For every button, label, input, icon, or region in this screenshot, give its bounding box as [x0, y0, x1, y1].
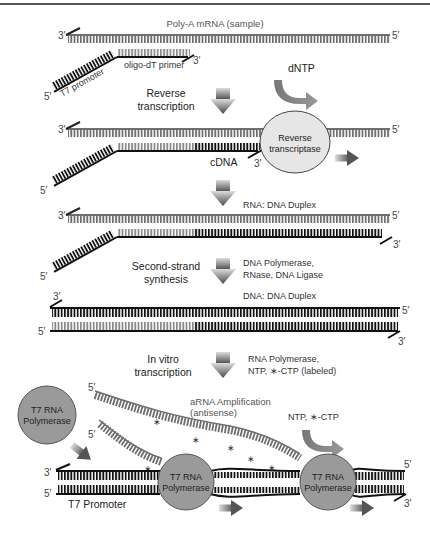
arna-label-1: aRNA Amplification	[190, 396, 271, 407]
s3-end-3: 3′	[58, 210, 66, 221]
direction-arrow-icon	[335, 150, 359, 166]
step-dna-dna-duplex: DNA: DNA Duplex 3′ 5′ 5′ 3′	[38, 291, 410, 347]
promoter-end-5: 5′	[44, 91, 52, 102]
t7-enzyme2-label-1: T7 RNA	[312, 472, 344, 482]
cy-label-marker: ∗	[192, 435, 200, 445]
direction-arrow-icon	[219, 500, 243, 516]
s4-bottom-end-5: 5′	[38, 326, 46, 337]
process-arrow-duplex	[210, 180, 236, 206]
arna-end-5-a: 5′	[88, 382, 96, 393]
second-strand-label-1: Second-strand	[132, 260, 200, 272]
cy-label-marker: ∗	[227, 443, 235, 453]
cdna-label: cDNA	[210, 156, 237, 168]
arna-end-5-b: 5′	[88, 429, 96, 440]
cy-label-marker: ∗	[153, 417, 161, 427]
process-arrow-reverse-transcription: Reverse transcription	[137, 87, 236, 114]
binding-arrow-icon	[67, 439, 96, 466]
second-strand-reagents-1: DNA Polymerase,	[243, 258, 314, 268]
s5-top-end-5: 5′	[404, 459, 412, 470]
dna-dna-duplex-label: DNA: DNA Duplex	[243, 291, 317, 301]
s2-end-3: 3′	[58, 124, 66, 135]
ivt-reagents-1: RNA Polymerase,	[248, 354, 319, 364]
rt-enzyme-label-1: Reverse	[278, 133, 312, 143]
second-strand-label-2: synthesis	[144, 273, 188, 285]
ivt-label-1: In vitro	[147, 353, 179, 365]
free-t7-label-2: Polymerase	[23, 416, 71, 426]
rna-dna-duplex-label: RNA: DNA Duplex	[243, 200, 317, 210]
t7-enzyme1-label-1: T7 RNA	[170, 472, 202, 482]
ivt-amplification-diagram: Poly-A mRNA (sample) 3′ 5′ 3′ oligo-dT p…	[0, 0, 430, 536]
direction-arrow-icon	[350, 500, 374, 516]
rt-enzyme-label-2: transcriptase	[269, 144, 321, 154]
free-t7-polymerase: T7 RNA Polymerase	[18, 386, 76, 444]
t7-enzyme2-label-2: Polymerase	[304, 483, 352, 493]
s2-end-5: 5′	[392, 124, 400, 135]
mrna-end-3: 3′	[58, 30, 66, 41]
s5-bottom-end-5: 5′	[44, 488, 52, 499]
primer-label: oligo-dT primer	[124, 60, 184, 70]
s5-top-end-3: 3′	[44, 467, 52, 478]
process-arrow-second-strand: Second-strand synthesis DNA Polymerase, …	[132, 258, 323, 285]
cdna-end-3: 3′	[254, 158, 262, 169]
s3-lower-end-3: 3′	[393, 239, 401, 250]
reverse-transcriptase-enzyme: Reverse transcriptase	[260, 111, 330, 173]
step-arna-amplification: T7 RNA Polymerase 5′ 5′ aRNA Amplificati…	[18, 382, 412, 516]
header-rule	[0, 3, 430, 5]
mrna-title: Poly-A mRNA (sample)	[166, 18, 263, 29]
reagent-arrow-icon	[302, 430, 344, 458]
dntp-label: dNTP	[288, 62, 315, 74]
s2-promoter-end-5: 5′	[40, 185, 48, 196]
mrna-end-5: 5′	[392, 30, 400, 41]
second-strand-reagents-2: RNase, DNA Ligase	[243, 270, 323, 280]
s5-bottom-end-3: 3′	[404, 498, 412, 509]
s4-top-end-5: 5′	[402, 305, 410, 316]
t7-promoter-label: T7 Promoter	[68, 498, 127, 510]
ivt-label-2: transcription	[134, 366, 191, 378]
s3-end-5: 5′	[392, 210, 400, 221]
ivt-reagents-2: NTP, ∗-CTP (labeled)	[248, 366, 336, 376]
s3-promoter-end-5: 5′	[40, 271, 48, 282]
primer-end-3: 3′	[193, 55, 201, 66]
t7-enzyme1-label-2: Polymerase	[162, 483, 210, 493]
arna-label-2: (antisense)	[190, 407, 237, 418]
s4-bottom-end-3: 3′	[398, 336, 406, 347]
free-t7-label-1: T7 RNA	[31, 405, 63, 415]
ivt-reagent-label: NTP, ∗-CTP	[288, 412, 339, 422]
t7-polymerase-1: T7 RNA Polymerase	[158, 454, 214, 510]
process-arrow-ivt: In vitro transcription RNA Polymerase, N…	[134, 352, 336, 378]
reagent-arrow-icon	[274, 80, 318, 110]
rt-step-label-2: transcription	[137, 100, 194, 112]
cy-label-marker: ∗	[247, 454, 255, 464]
rt-step-label-1: Reverse	[146, 87, 185, 99]
t7-polymerase-2: T7 RNA Polymerase	[300, 454, 356, 510]
